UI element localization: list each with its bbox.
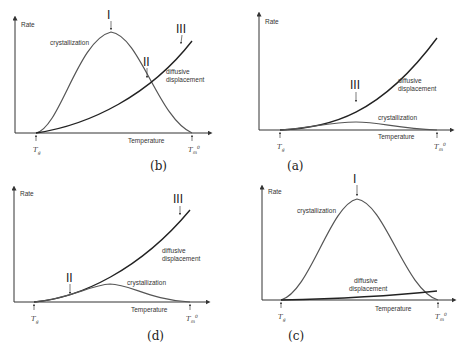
- crystallization-label: crystallization: [378, 114, 417, 122]
- y-axis-label: Rate: [268, 188, 282, 195]
- figure: Rate Temperature crystallization diffusi…: [0, 0, 463, 350]
- y-axis-label: Rate: [265, 18, 279, 25]
- mark-III: III: [176, 22, 186, 36]
- crystallization-curve: [34, 284, 190, 302]
- crystallization-label: crystallization: [50, 39, 89, 47]
- diffusive-label: diffusive: [162, 247, 186, 254]
- displacement-label: displacement: [398, 85, 436, 93]
- tm-label: Tm0: [434, 142, 446, 152]
- mark-III: III: [350, 78, 360, 92]
- diffusive-curve: [281, 291, 437, 300]
- mark-II: II: [143, 55, 150, 69]
- displacement-label: displacement: [166, 76, 204, 84]
- tm-label: Tm0: [186, 314, 198, 324]
- diffusive-label: diffusive: [398, 77, 422, 84]
- mark-III: III: [173, 192, 183, 206]
- y-axis-label: Rate: [21, 21, 35, 28]
- x-axis-label: Temperature: [128, 137, 165, 145]
- caption-b: (b): [150, 159, 167, 173]
- panel-b: Rate Temperature crystallization diffusi…: [15, 8, 210, 173]
- mark-I: I: [107, 8, 110, 22]
- displacement-label: displacement: [349, 285, 387, 293]
- diffusive-label: diffusive: [354, 277, 378, 284]
- x-axis-label: Temperature: [378, 133, 415, 141]
- crystallization-curve: [280, 122, 437, 130]
- crystallization-label: crystallization: [297, 207, 336, 215]
- crystallization-label: crystallization: [127, 279, 166, 287]
- panel-d: Rate Temperature diffusive displacement …: [14, 188, 208, 343]
- diffusive-label: diffusive: [166, 68, 190, 75]
- caption-a: (a): [287, 159, 304, 173]
- tg-label: Tg: [33, 146, 41, 155]
- caption-d: (d): [147, 329, 164, 343]
- caption-c: (c): [288, 329, 304, 343]
- mark-I: I: [353, 172, 356, 186]
- mark-II: II: [66, 271, 73, 285]
- panel-a: Rate Temperature diffusive displacement …: [259, 14, 452, 173]
- diffusive-curve: [36, 41, 192, 133]
- displacement-label: displacement: [162, 255, 200, 263]
- tg-label: Tg: [278, 313, 286, 322]
- x-axis-label: Temperature: [375, 305, 412, 313]
- panel-c: Rate Temperature crystallization diffusi…: [262, 172, 454, 343]
- tg-label: Tg: [31, 315, 39, 324]
- x-axis-label: Temperature: [131, 306, 168, 314]
- y-axis-label: Rate: [20, 190, 34, 197]
- tm-label: Tm0: [435, 312, 447, 322]
- tg-label: Tg: [277, 143, 285, 152]
- tm-label: Tm0: [188, 145, 200, 155]
